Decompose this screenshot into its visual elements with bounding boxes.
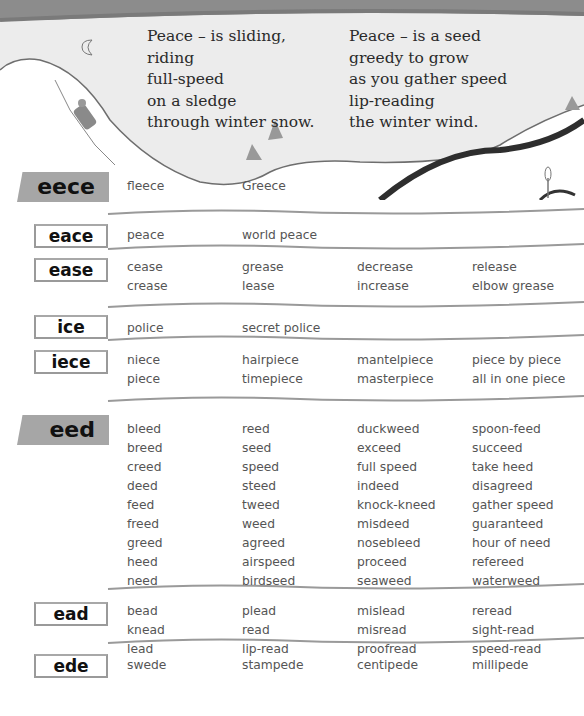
poem-left: Peace – is sliding, riding full-speed on… bbox=[147, 26, 314, 134]
word-column: swede bbox=[127, 656, 242, 675]
word: knock-kneed bbox=[357, 496, 472, 515]
word: freed bbox=[127, 515, 242, 534]
word: misdeed bbox=[357, 515, 472, 534]
word: all in one piece bbox=[472, 370, 584, 389]
word: proceed bbox=[357, 553, 472, 572]
word: duckweed bbox=[357, 420, 472, 439]
word: hairpiece bbox=[242, 351, 357, 370]
word-column: rereadsight-readspeed-read bbox=[472, 602, 584, 659]
word: creed bbox=[127, 458, 242, 477]
word: release bbox=[472, 258, 584, 277]
word-column: world peace bbox=[242, 226, 357, 245]
word: peace bbox=[127, 226, 242, 245]
word-column: duckweedexceedfull speedindeedknock-knee… bbox=[357, 420, 472, 591]
word-columns: fleeceGreece bbox=[127, 177, 584, 196]
word: succeed bbox=[472, 439, 584, 458]
section-divider bbox=[0, 395, 584, 403]
section-divider bbox=[0, 301, 584, 309]
word: birdseed bbox=[242, 572, 357, 591]
word: gather speed bbox=[472, 496, 584, 515]
poem-line: through winter snow. bbox=[147, 112, 314, 134]
word: grease bbox=[242, 258, 357, 277]
word: heed bbox=[127, 553, 242, 572]
word: need bbox=[127, 572, 242, 591]
word: indeed bbox=[357, 477, 472, 496]
word: airspeed bbox=[242, 553, 357, 572]
word-columns: peaceworld peace bbox=[127, 226, 584, 245]
word: lease bbox=[242, 277, 357, 296]
word-column bbox=[357, 226, 472, 245]
word: timepiece bbox=[242, 370, 357, 389]
word: bead bbox=[127, 602, 242, 621]
word: fleece bbox=[127, 177, 242, 196]
word: elbow grease bbox=[472, 277, 584, 296]
word: exceed bbox=[357, 439, 472, 458]
word: decrease bbox=[357, 258, 472, 277]
word-column: niecepiece bbox=[127, 351, 242, 389]
word-column bbox=[357, 177, 472, 196]
word: cease bbox=[127, 258, 242, 277]
word: crease bbox=[127, 277, 242, 296]
word-column: greaselease bbox=[242, 258, 357, 296]
word-column: spoon-feedsucceedtake heeddisagreedgathe… bbox=[472, 420, 584, 591]
word: breed bbox=[127, 439, 242, 458]
spelling-pattern-label: ease bbox=[34, 258, 108, 282]
word-column bbox=[472, 226, 584, 245]
word-column: decreaseincrease bbox=[357, 258, 472, 296]
word: seaweed bbox=[357, 572, 472, 591]
spelling-pattern-label: ice bbox=[34, 315, 108, 339]
word-column: hairpiecetimepiece bbox=[242, 351, 357, 389]
word-column: secret police bbox=[242, 319, 357, 338]
poem-line: greedy to grow bbox=[349, 48, 507, 70]
word-column bbox=[472, 177, 584, 196]
word: guaranteed bbox=[472, 515, 584, 534]
word: refereed bbox=[472, 553, 584, 572]
word: misread bbox=[357, 621, 472, 640]
word: knead bbox=[127, 621, 242, 640]
word: reed bbox=[242, 420, 357, 439]
word-column: bleedbreedcreeddeedfeedfreedgreedheednee… bbox=[127, 420, 242, 591]
word-column bbox=[472, 319, 584, 338]
poem-line: full-speed bbox=[147, 69, 314, 91]
poem-line: riding bbox=[147, 48, 314, 70]
word-column: piece by pieceall in one piece bbox=[472, 351, 584, 389]
section-divider bbox=[0, 208, 584, 216]
word-column bbox=[357, 319, 472, 338]
word: mantelpiece bbox=[357, 351, 472, 370]
word-columns: bleedbreedcreeddeedfeedfreedgreedheednee… bbox=[127, 420, 584, 591]
word: hour of need bbox=[472, 534, 584, 553]
word-column: beadkneadlead bbox=[127, 602, 242, 659]
word-column: reedseedspeedsteedtweedweedagreedairspee… bbox=[242, 420, 357, 591]
word-column: stampede bbox=[242, 656, 357, 675]
spelling-pattern-label: iece bbox=[34, 350, 108, 374]
word: seed bbox=[242, 439, 357, 458]
word: piece by piece bbox=[472, 351, 584, 370]
poem-line: on a sledge bbox=[147, 91, 314, 113]
word: piece bbox=[127, 370, 242, 389]
word-columns: niecepiecehairpiecetimepiecemantelpiecem… bbox=[127, 351, 584, 389]
poem-line: as you gather speed bbox=[349, 69, 507, 91]
word: speed bbox=[242, 458, 357, 477]
word: centipede bbox=[357, 656, 472, 675]
poem-line: lip-reading bbox=[349, 91, 507, 113]
spelling-pattern-label: ead bbox=[34, 602, 108, 626]
word-column: misleadmisreadproofread bbox=[357, 602, 472, 659]
poem-line: Peace – is a seed bbox=[349, 26, 507, 48]
word: niece bbox=[127, 351, 242, 370]
word: mislead bbox=[357, 602, 472, 621]
word: deed bbox=[127, 477, 242, 496]
word-column: peace bbox=[127, 226, 242, 245]
word: weed bbox=[242, 515, 357, 534]
word: greed bbox=[127, 534, 242, 553]
poem-right: Peace – is a seed greedy to grow as you … bbox=[349, 26, 507, 134]
word-column: fleece bbox=[127, 177, 242, 196]
word-column: centipede bbox=[357, 656, 472, 675]
spelling-pattern-label: eed bbox=[17, 415, 109, 445]
word-columns: policesecret police bbox=[127, 319, 584, 338]
word: plead bbox=[242, 602, 357, 621]
word: disagreed bbox=[472, 477, 584, 496]
poem-line: the winter wind. bbox=[349, 112, 507, 134]
word: agreed bbox=[242, 534, 357, 553]
word: bleed bbox=[127, 420, 242, 439]
word-column: millipede bbox=[472, 656, 584, 675]
